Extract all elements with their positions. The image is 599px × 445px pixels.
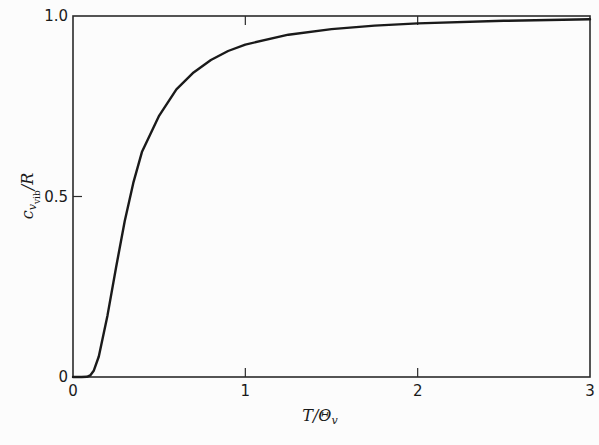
x-tick-label: 3 xyxy=(585,384,595,399)
y-tick-label: 0.5 xyxy=(44,189,68,204)
y-axis-title-sub-v: v xyxy=(26,204,39,210)
y-axis-title-subsub: vib xyxy=(32,190,42,204)
axis-ticks xyxy=(73,16,418,377)
plot-frame xyxy=(73,16,590,377)
x-tick-label: 1 xyxy=(241,384,251,399)
x-axis-title: T/Θv xyxy=(302,406,337,427)
y-axis-title-sub: vvib xyxy=(26,190,39,210)
y-axis-title: cvvib/R xyxy=(18,173,42,219)
y-tick-label: 0 xyxy=(58,370,68,385)
y-axis-title-main: c xyxy=(18,210,37,219)
y-axis-title-tail: /R xyxy=(18,173,37,190)
y-tick-label: 1.0 xyxy=(44,9,68,24)
x-axis-title-main: T/Θ xyxy=(302,406,331,425)
x-tick-label: 0 xyxy=(68,384,78,399)
x-axis-title-sub: v xyxy=(331,414,337,427)
heat-capacity-curve xyxy=(73,19,590,377)
chart-canvas xyxy=(0,0,599,445)
x-tick-label: 2 xyxy=(413,384,423,399)
